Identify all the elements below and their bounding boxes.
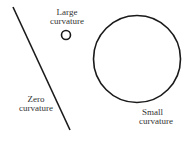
curvature-diagram: Large curvature Zero curvature Small cur… [0, 0, 190, 143]
zero-curvature-label: Zero curvature [17, 95, 55, 113]
label-line: curvature [17, 104, 55, 113]
label-line: curvature [50, 17, 84, 26]
small-curvature-label: Small curvature [139, 108, 177, 126]
small-curvature-circle [94, 16, 181, 103]
large-curvature-circle [62, 31, 71, 40]
large-curvature-label: Large curvature [50, 8, 84, 26]
label-line: curvature [139, 117, 177, 126]
